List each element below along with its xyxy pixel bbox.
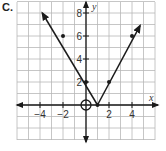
x-axis-label: x: [148, 92, 154, 103]
y-axis-label: y: [91, 1, 97, 12]
data-point: [96, 103, 100, 107]
x-tick-label: −2: [57, 109, 69, 120]
graph: −4−2242468xy: [0, 0, 166, 151]
data-point: [107, 80, 111, 84]
right-branch: [98, 26, 141, 105]
data-point: [84, 80, 88, 84]
x-tick-label: 4: [129, 109, 135, 120]
x-tick-label: 2: [106, 109, 112, 120]
plot-line: [42, 13, 140, 110]
tick-labels: −4−2242468xy: [34, 1, 154, 120]
axes: [17, 2, 158, 142]
y-tick-label: 8: [76, 8, 82, 19]
y-tick-label: 4: [76, 54, 82, 65]
data-point: [61, 34, 65, 38]
data-point: [130, 34, 134, 38]
y-tick-label: 6: [76, 31, 82, 42]
x-tick-label: −4: [34, 109, 46, 120]
